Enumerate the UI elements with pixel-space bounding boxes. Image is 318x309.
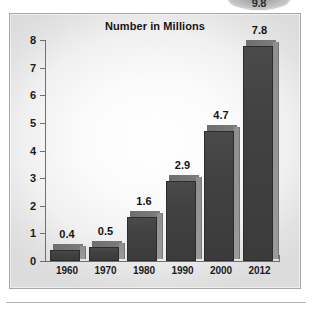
x-axis-end-tick (279, 255, 280, 262)
page-divider-rule (6, 302, 306, 303)
bar-side-face (80, 246, 86, 259)
bar-front-face (89, 247, 119, 261)
y-axis-label: 1 (18, 228, 36, 239)
bar-front-face (50, 250, 80, 261)
bar-front-face (166, 181, 196, 261)
cropped-badge-label: 9.8 (228, 0, 290, 9)
y-axis-label: 6 (18, 90, 36, 101)
bar-value-label-1990: 2.9 (163, 160, 203, 171)
bar-2012 (243, 40, 279, 261)
y-axis-label: 2 (18, 201, 36, 212)
y-axis-label: 8 (18, 35, 36, 46)
bar-front-face (204, 131, 234, 261)
bar-side-face (273, 42, 279, 259)
bar-1960 (50, 244, 86, 261)
chart-panel: Number in Millions 0123456780.419600.519… (9, 13, 301, 289)
y-axis-label: 3 (18, 173, 36, 184)
y-axis-label: 5 (18, 118, 36, 129)
plot-area: 0123456780.419600.519701.619802.919904.7… (10, 14, 302, 290)
y-axis-tick (40, 123, 46, 124)
bar-value-label-2000: 4.7 (201, 110, 241, 121)
y-axis-label: 0 (18, 256, 36, 267)
x-axis-label-1960: 1960 (47, 265, 87, 277)
bar-value-label-2012: 7.8 (240, 25, 280, 36)
x-axis-label-1980: 1980 (124, 265, 164, 277)
y-axis-tick (40, 95, 46, 96)
x-axis-label-2000: 2000 (201, 265, 241, 277)
y-axis-tick (40, 178, 46, 179)
bar-1990 (166, 175, 202, 261)
y-axis-label: 7 (18, 63, 36, 74)
bar-1980 (127, 211, 163, 261)
y-axis-label: 4 (18, 146, 36, 157)
bar-side-face (157, 213, 163, 259)
y-axis-tick (40, 40, 46, 41)
bar-side-face (196, 177, 202, 259)
bar-side-face (234, 127, 240, 259)
y-axis-tick (40, 233, 46, 234)
y-axis-tick (40, 68, 46, 69)
cropped-badge: 9.8 (228, 0, 290, 9)
x-axis-label-1990: 1990 (163, 265, 203, 277)
y-axis-tick (40, 206, 46, 207)
bar-value-label-1980: 1.6 (124, 196, 164, 207)
bar-front-face (243, 46, 273, 261)
bar-1970 (89, 241, 125, 261)
bar-side-face (119, 243, 125, 259)
bar-value-label-1970: 0.5 (86, 226, 126, 237)
x-axis-line (45, 261, 280, 262)
bar-value-label-1960: 0.4 (47, 229, 87, 240)
x-axis-label-1970: 1970 (86, 265, 126, 277)
y-axis-tick (40, 261, 46, 262)
bar-front-face (127, 217, 157, 261)
x-axis-label-2012: 2012 (240, 265, 280, 277)
bar-2000 (204, 125, 240, 261)
y-axis-tick (40, 151, 46, 152)
